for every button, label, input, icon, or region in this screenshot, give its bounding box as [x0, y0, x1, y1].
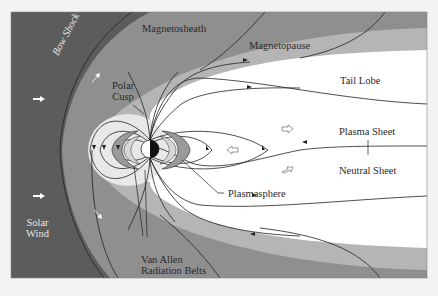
- label-van-allen: Van Allen Radiation Belts: [141, 254, 206, 276]
- label-plasmasphere: Plasmasphere: [228, 188, 286, 199]
- label-polar-cusp-line2: Cusp: [112, 91, 134, 102]
- label-van-allen-line2: Radiation Belts: [141, 265, 206, 276]
- label-plasma-sheet: Plasma Sheet: [339, 126, 395, 137]
- label-polar-cusp-line1: Polar: [112, 80, 134, 91]
- label-solar-wind-line1: Solar: [26, 217, 49, 228]
- label-magnetopause: Magnetopause: [249, 40, 310, 51]
- label-van-allen-line1: Van Allen: [141, 254, 206, 265]
- earth-icon: [141, 140, 159, 158]
- label-solar-wind-line2: Wind: [26, 228, 49, 239]
- label-polar-cusp: Polar Cusp: [112, 80, 134, 102]
- label-solar-wind: Solar Wind: [26, 217, 49, 239]
- label-magnetosheath: Magnetosheath: [142, 23, 206, 34]
- label-neutral-sheet: Neutral Sheet: [339, 165, 396, 176]
- label-tail-lobe: Tail Lobe: [340, 75, 380, 86]
